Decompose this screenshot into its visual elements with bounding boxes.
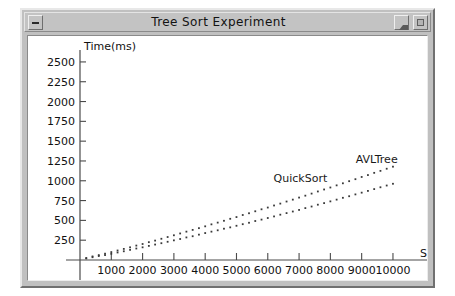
y-tick-label: 1250 xyxy=(47,155,75,168)
data-point xyxy=(392,166,394,168)
data-point xyxy=(129,246,131,248)
data-point xyxy=(254,210,256,212)
data-point xyxy=(373,172,375,174)
data-point xyxy=(198,234,200,236)
title-bar[interactable]: Tree Sort Experiment xyxy=(24,12,431,32)
data-point xyxy=(261,208,263,210)
data-point xyxy=(179,238,181,240)
data-point xyxy=(386,185,388,187)
data-point xyxy=(173,239,175,241)
data-point xyxy=(373,188,375,190)
data-point xyxy=(135,248,137,250)
data-point xyxy=(361,176,363,178)
data-point xyxy=(311,193,313,195)
data-point xyxy=(292,211,294,213)
data-point xyxy=(148,245,150,247)
data-point xyxy=(248,222,250,224)
data-point xyxy=(329,200,331,202)
x-tick-label: 8000 xyxy=(316,264,344,277)
data-point xyxy=(117,252,119,254)
data-point xyxy=(98,254,100,256)
data-point xyxy=(142,246,144,248)
data-point xyxy=(236,225,238,227)
x-tick-label: 9000 xyxy=(348,264,376,277)
data-point xyxy=(110,253,112,255)
application-window: Tree Sort Experiment 2505007501000125015… xyxy=(20,8,435,288)
x-tick-label: 6000 xyxy=(254,264,282,277)
data-point xyxy=(217,222,219,224)
data-point xyxy=(386,168,388,170)
data-point xyxy=(380,170,382,172)
data-point xyxy=(367,174,369,176)
data-point xyxy=(117,250,119,252)
data-point xyxy=(123,250,125,252)
x-tick-label: 10000 xyxy=(375,264,410,277)
data-point xyxy=(167,241,169,243)
data-point xyxy=(192,229,194,231)
data-point xyxy=(236,216,238,218)
y-tick-label: 1000 xyxy=(47,175,75,188)
data-point xyxy=(286,201,288,203)
series-annotation: QuickSort xyxy=(274,172,328,185)
data-point xyxy=(198,227,200,229)
data-point xyxy=(355,194,357,196)
data-point xyxy=(279,203,281,205)
y-tick-label: 1750 xyxy=(47,115,75,128)
data-point xyxy=(329,187,331,189)
data-point xyxy=(267,217,269,219)
data-point xyxy=(229,218,231,220)
data-point xyxy=(355,178,357,180)
data-point xyxy=(186,231,188,233)
data-point xyxy=(92,256,94,258)
data-point xyxy=(154,240,156,242)
data-point xyxy=(204,225,206,227)
data-point xyxy=(223,220,225,222)
data-point xyxy=(186,237,188,239)
series-annotation: AVLTree xyxy=(356,153,398,166)
data-point xyxy=(298,209,300,211)
x-tick-label: 3000 xyxy=(160,264,188,277)
x-tick-label: 7000 xyxy=(285,264,313,277)
data-point xyxy=(85,257,87,259)
data-point xyxy=(254,220,256,222)
data-point xyxy=(217,229,219,231)
x-tick-label: 5000 xyxy=(222,264,250,277)
x-tick-label: 1000 xyxy=(97,264,125,277)
data-point xyxy=(292,199,294,201)
data-point xyxy=(160,242,162,244)
data-point xyxy=(336,199,338,201)
data-point xyxy=(179,233,181,235)
data-point xyxy=(286,212,288,214)
data-point xyxy=(192,235,194,237)
data-point xyxy=(173,234,175,236)
data-point xyxy=(142,243,144,245)
plot-svg: 2505007501000125015001750200022502500100… xyxy=(28,36,428,281)
maximize-icon[interactable] xyxy=(413,15,428,30)
data-point xyxy=(242,223,244,225)
data-point xyxy=(229,226,231,228)
window-title: Tree Sort Experiment xyxy=(45,15,392,29)
data-point xyxy=(211,223,213,225)
data-point xyxy=(317,204,319,206)
window-menu-icon[interactable] xyxy=(28,15,43,30)
y-tick-label: 500 xyxy=(54,214,75,227)
y-tick-label: 250 xyxy=(54,234,75,247)
series-avltree xyxy=(85,166,394,259)
y-tick-label: 2000 xyxy=(47,96,75,109)
data-point xyxy=(261,219,263,221)
y-tick-label: 2500 xyxy=(47,56,75,69)
data-point xyxy=(336,184,338,186)
data-point xyxy=(348,195,350,197)
scatter-plot: 2505007501000125015001750200022502500100… xyxy=(28,36,428,281)
x-tick-label: 4000 xyxy=(191,264,219,277)
data-point xyxy=(342,197,344,199)
data-point xyxy=(248,212,250,214)
data-point xyxy=(110,251,112,253)
data-point xyxy=(304,195,306,197)
series-quicksort xyxy=(85,183,394,259)
data-point xyxy=(154,244,156,246)
data-point xyxy=(160,238,162,240)
data-point xyxy=(273,216,275,218)
data-point xyxy=(380,186,382,188)
minimize-icon[interactable] xyxy=(394,15,409,30)
